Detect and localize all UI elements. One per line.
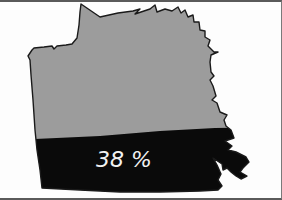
percentage-label: 38 % [96, 148, 152, 172]
